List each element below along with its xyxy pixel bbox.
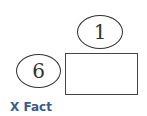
top-number: 1: [94, 20, 107, 44]
caption: X Fact: [10, 100, 52, 114]
answer-box: [65, 53, 138, 95]
left-number-ellipse: 6: [16, 54, 61, 88]
left-number: 6: [32, 59, 45, 83]
top-number-ellipse: 1: [77, 15, 123, 49]
